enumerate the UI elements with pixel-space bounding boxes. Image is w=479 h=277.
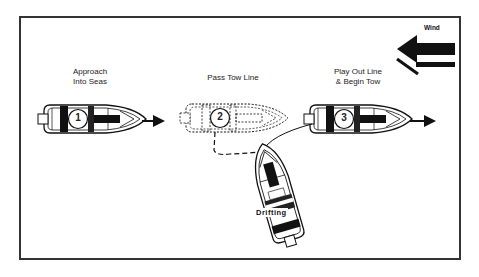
drifting-label: Drifting [255, 208, 288, 217]
step-label-1: Approach Into Seas [50, 67, 130, 87]
step-label-3: Play Out Line & Begin Tow [318, 67, 398, 87]
step-number-2: 2 [214, 112, 226, 122]
step-3-line-2: & Begin Tow [318, 77, 398, 87]
towing-diagram [0, 0, 479, 277]
step-label-2: Pass Tow Line [188, 73, 278, 83]
drifting-boat [247, 139, 307, 250]
boat-step-1 [38, 105, 146, 133]
step-number-3: 3 [338, 113, 350, 123]
boat-step-3 [304, 105, 412, 133]
step-2-line-1: Pass Tow Line [188, 73, 278, 83]
wind-label: Wind [424, 24, 440, 31]
pass-line-dashed [214, 132, 258, 155]
step-1-line-1: Approach [50, 67, 130, 77]
step-number-1: 1 [72, 113, 84, 123]
step-1-line-2: Into Seas [50, 77, 130, 87]
wind-arrow-icon [397, 35, 455, 74]
boat-step-2 [180, 104, 288, 132]
step-3-line-1: Play Out Line [318, 67, 398, 77]
